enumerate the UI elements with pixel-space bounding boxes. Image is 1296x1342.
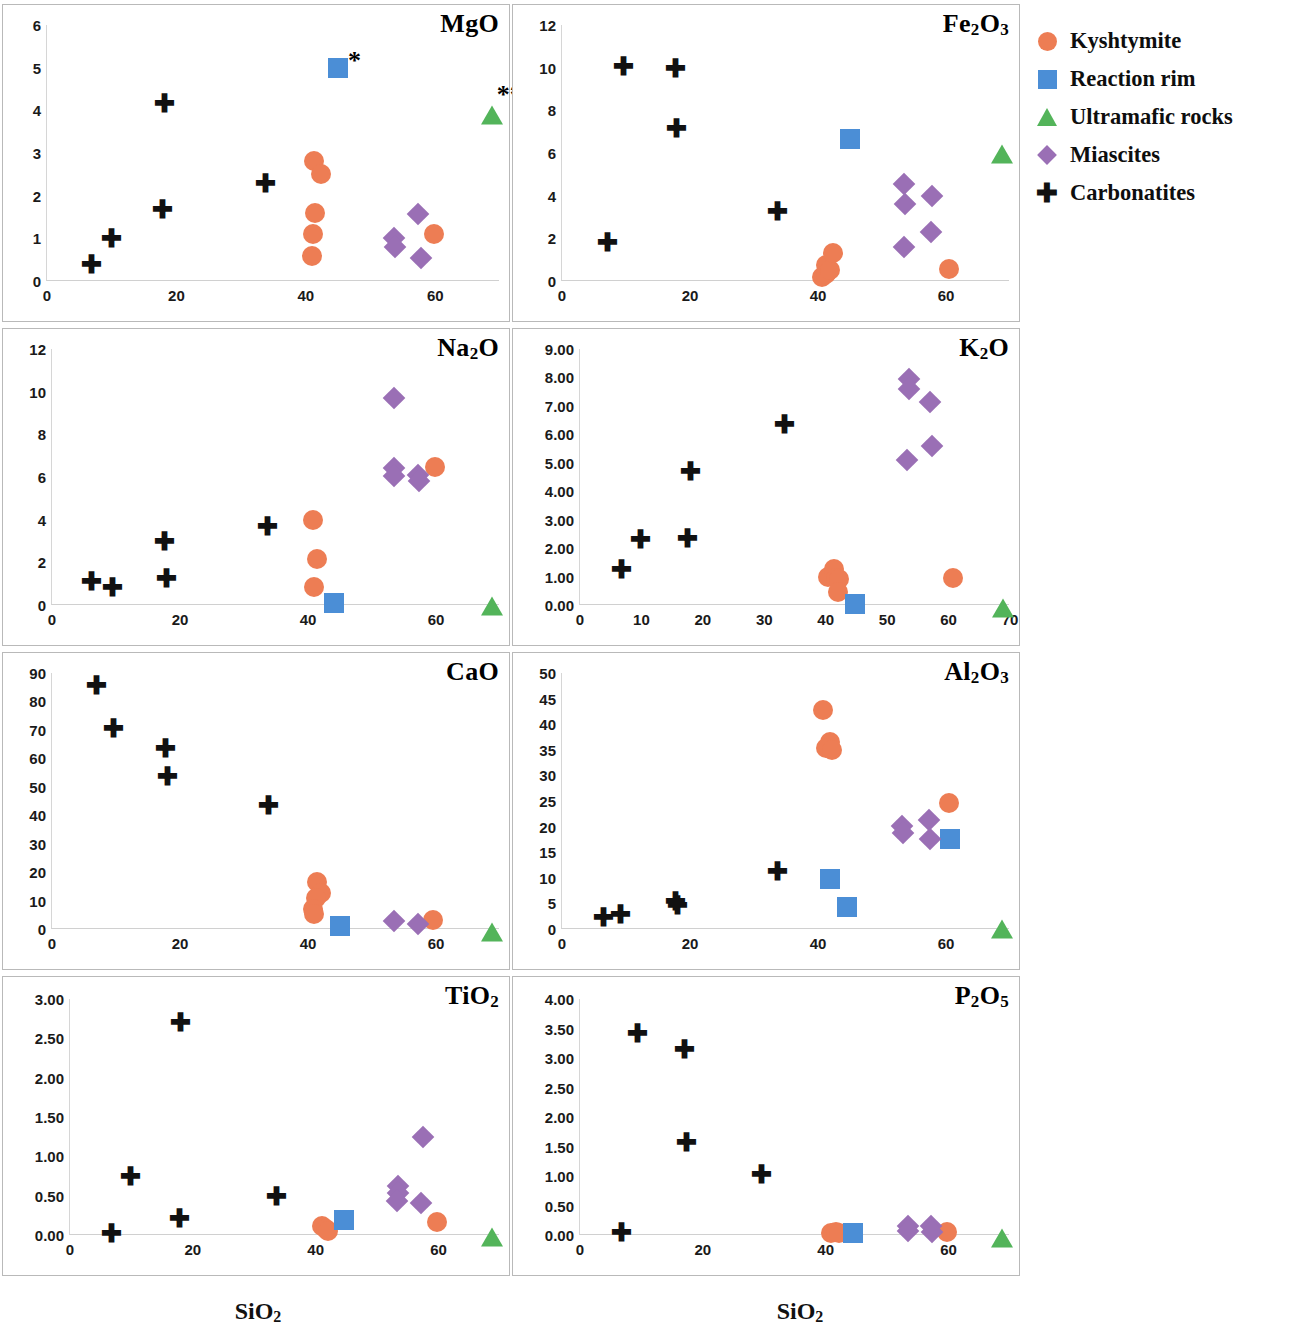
data-point-plus	[103, 578, 123, 598]
data-point-plus	[82, 572, 102, 592]
data-point-diamond	[384, 236, 407, 259]
x-tick-label: 30	[756, 611, 773, 628]
x-tick-label: 20	[185, 1241, 202, 1258]
x-tick-label: 0	[558, 287, 566, 304]
legend-label: Kyshtymite	[1070, 28, 1181, 54]
data-point-plus	[597, 233, 617, 253]
data-point-diamond	[408, 470, 431, 493]
data-point-plus	[258, 795, 278, 815]
y-tick-label: 3.50	[545, 1020, 574, 1037]
data-point-circle	[829, 1223, 849, 1243]
x-tick-label: 60	[938, 935, 955, 952]
y-tick-label: 40	[539, 716, 556, 733]
data-point-circle	[820, 260, 840, 280]
y-tick-label: 6	[33, 17, 41, 34]
y-tick-label: 0	[38, 597, 46, 614]
y-tick-label: 0.00	[35, 1227, 64, 1244]
x-tick-label: 70	[1002, 611, 1019, 628]
data-point-diamond	[920, 1214, 943, 1237]
data-point-square	[843, 1223, 863, 1243]
plot-area: 0.000.501.001.502.002.503.003.504.000204…	[579, 999, 1009, 1235]
data-point-circle	[306, 888, 326, 908]
y-tick-label: 5	[548, 895, 556, 912]
data-point-diamond	[386, 1190, 409, 1213]
data-point-diamond	[898, 377, 921, 400]
data-point-circle	[304, 904, 324, 924]
y-tick-label: 1.50	[545, 1138, 574, 1155]
x-tick-label: 40	[300, 611, 317, 628]
data-point-plus	[767, 202, 787, 222]
y-tick-label: 50	[29, 778, 46, 795]
legend-item-ultramafic-rocks[interactable]: Ultramafic rocks	[1030, 98, 1288, 136]
plot-area: 051015202530354045500204060	[561, 673, 1009, 929]
x-tick-label: 20	[172, 935, 189, 952]
data-point-circle	[939, 259, 959, 279]
y-tick-label: 9.00	[545, 341, 574, 358]
data-point-plus	[666, 891, 686, 911]
data-point-circle	[821, 1223, 841, 1243]
y-tick-label: 3.00	[545, 1050, 574, 1067]
data-point-plus	[612, 559, 632, 579]
legend-item-carbonatites[interactable]: ✚Carbonatites	[1030, 174, 1288, 212]
y-tick-label: 2	[38, 554, 46, 571]
data-point-diamond	[892, 821, 915, 844]
x-tick-label: 40	[300, 935, 317, 952]
y-tick-label: 3.00	[545, 511, 574, 528]
chart-panel-al2o3: Al2O3051015202530354045500204060	[512, 652, 1020, 970]
data-point-circle	[423, 910, 443, 930]
data-point-diamond	[897, 1215, 920, 1238]
x-tick-label: 40	[810, 935, 827, 952]
data-point-plus	[752, 1165, 772, 1185]
data-point-diamond	[894, 193, 917, 216]
data-point-plus	[102, 1223, 122, 1243]
data-point-diamond	[893, 236, 916, 259]
legend-item-miascites[interactable]: Miascites	[1030, 136, 1288, 174]
data-point-triangle	[991, 919, 1013, 938]
y-tick-label: 1.50	[35, 1109, 64, 1126]
x-tick-label: 0	[48, 935, 56, 952]
plot-area: 01234560204060***	[46, 25, 499, 281]
y-tick-label: 0.00	[545, 1227, 574, 1244]
x-tick-label: 0	[576, 1241, 584, 1258]
y-tick-label: 70	[29, 721, 46, 738]
harker-diagram-figure: MgO01234560204060***Fe2O3024681012020406…	[0, 0, 1296, 1342]
data-point-circle	[311, 164, 331, 184]
data-point-circle	[304, 151, 324, 171]
data-point-diamond	[896, 449, 919, 472]
data-point-diamond	[387, 1182, 410, 1205]
y-tick-label: 2.00	[545, 1109, 574, 1126]
data-point-circle	[828, 582, 848, 602]
y-tick-label: 1.00	[545, 568, 574, 585]
data-point-plus	[258, 516, 278, 536]
y-tick-label: 2.50	[35, 1030, 64, 1047]
chart-panel-fe2o3: Fe2O30246810120204060	[512, 4, 1020, 322]
y-tick-label: 12	[29, 341, 46, 358]
y-tick-label: 0	[548, 273, 556, 290]
plot-area: 0.000.501.001.502.002.503.000204060	[69, 999, 499, 1235]
data-point-square	[820, 869, 840, 889]
y-tick-label: 8	[38, 426, 46, 443]
data-point-plus	[82, 255, 102, 275]
legend: KyshtymiteReaction rimUltramafic rocksMi…	[1030, 22, 1288, 212]
diamond-icon	[1037, 145, 1057, 165]
y-tick-label: 4.00	[545, 483, 574, 500]
data-point-plus	[677, 1132, 697, 1152]
y-tick-label: 2.50	[545, 1079, 574, 1096]
y-tick-label: 2.00	[35, 1069, 64, 1086]
y-tick-label: 10	[539, 869, 556, 886]
plot-area: 0246810120204060	[561, 25, 1009, 281]
data-point-plus	[120, 1166, 140, 1186]
data-point-circle	[303, 224, 323, 244]
legend-item-reaction-rim[interactable]: Reaction rim	[1030, 60, 1288, 98]
data-point-plus	[667, 118, 687, 138]
y-tick-label: 4	[33, 102, 41, 119]
y-tick-label: 5	[33, 59, 41, 76]
data-point-square	[324, 593, 344, 613]
x-tick-label: 40	[810, 287, 827, 304]
data-point-square	[845, 594, 865, 614]
data-point-circle	[318, 1221, 338, 1241]
data-point-square	[940, 829, 960, 849]
data-point-circle	[304, 577, 324, 597]
legend-item-kyshtymite[interactable]: Kyshtymite	[1030, 22, 1288, 60]
y-tick-label: 50	[539, 665, 556, 682]
